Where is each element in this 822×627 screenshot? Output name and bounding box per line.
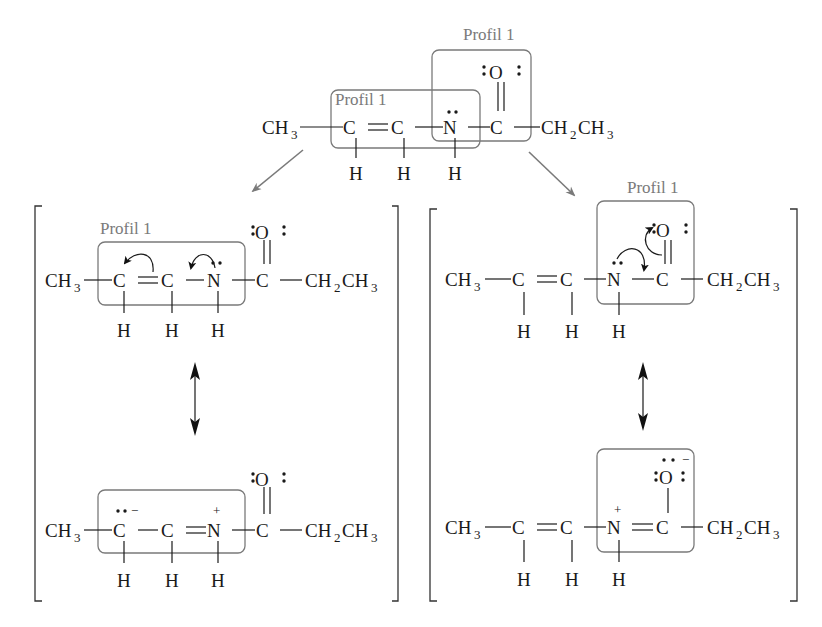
- atom-ch3: CH: [262, 117, 289, 138]
- atom-c1: C: [512, 269, 525, 290]
- atom-ch3: CH: [45, 270, 72, 291]
- atom-c1: C: [113, 270, 126, 291]
- atom-ch3-end: CH: [578, 117, 605, 138]
- profile-label-top-right: Profil 1: [463, 25, 514, 44]
- atom-ch3-end: CH: [342, 520, 369, 541]
- atom-o-anion: O: [659, 467, 673, 488]
- bracket-left: [35, 206, 42, 601]
- atom-c2: C: [560, 517, 573, 538]
- subscript: 3: [74, 530, 81, 545]
- subscript: 3: [474, 279, 481, 294]
- subscript: 3: [474, 527, 481, 542]
- atom-c2: C: [391, 117, 404, 138]
- atom-c1: C: [512, 517, 525, 538]
- profile-label-top-left: Profil 1: [335, 90, 386, 109]
- atom-c3: C: [256, 520, 269, 541]
- atom-h: H: [117, 570, 131, 591]
- atom-h: H: [612, 569, 626, 590]
- atom-o: O: [656, 220, 670, 241]
- atom-o: O: [489, 62, 503, 83]
- atom-h: H: [565, 321, 579, 342]
- atom-ch3-end: CH: [744, 517, 771, 538]
- profile-label-right: Profil 1: [627, 178, 678, 197]
- top-molecule: Profil 1 Profil 1 CH 3 C C N C O CH 2 CH…: [262, 25, 614, 184]
- atom-c2: C: [560, 269, 573, 290]
- atom-h: H: [117, 320, 131, 341]
- atom-h: H: [211, 570, 225, 591]
- charge-plus: +: [614, 502, 621, 517]
- right-panel: Profil 1 CH 3 C C N C O CH 2 CH 3 H H H: [430, 178, 797, 601]
- subscript: 3: [607, 127, 614, 142]
- subscript: 3: [371, 530, 378, 545]
- subscript: 3: [371, 280, 378, 295]
- charge-minus: −: [131, 503, 138, 518]
- subscript: 2: [334, 530, 341, 545]
- atom-h: H: [211, 320, 225, 341]
- atom-ch2: CH: [707, 269, 734, 290]
- atom-h: H: [165, 570, 179, 591]
- subscript: 2: [736, 279, 743, 294]
- charge-minus: −: [682, 452, 689, 467]
- atom-ch2: CH: [541, 117, 568, 138]
- subscript: 3: [74, 280, 81, 295]
- atom-h: H: [565, 569, 579, 590]
- atom-o: O: [255, 469, 269, 490]
- atom-ch3: CH: [445, 269, 472, 290]
- atom-h: H: [165, 320, 179, 341]
- atom-c3: C: [656, 269, 669, 290]
- atom-c3: C: [656, 517, 669, 538]
- subscript: 2: [736, 527, 743, 542]
- arrow-to-left-panel: [253, 150, 303, 191]
- atom-ch3: CH: [445, 517, 472, 538]
- subscript: 2: [334, 280, 341, 295]
- resonance-diagram: Profil 1 Profil 1 CH 3 C C N C O CH 2 CH…: [0, 0, 822, 627]
- atom-c1-anion: C: [113, 520, 126, 541]
- curved-arrow-lone-pair: [191, 255, 215, 269]
- arrow-to-right-panel: [529, 152, 574, 195]
- atom-n: N: [443, 117, 457, 138]
- subscript: 2: [570, 127, 577, 142]
- atom-h: H: [517, 321, 531, 342]
- profile-label-left: Profil 1: [100, 219, 151, 238]
- atom-n-cation: N: [207, 520, 221, 541]
- atom-ch2: CH: [305, 270, 332, 291]
- atom-ch3-end: CH: [342, 270, 369, 291]
- atom-c1: C: [343, 117, 356, 138]
- atom-h: H: [448, 163, 462, 184]
- charge-plus: +: [213, 503, 220, 518]
- atom-ch3: CH: [45, 520, 72, 541]
- left-panel: Profil 1 CH 3 C C N C O CH 2 CH 3 H H H: [35, 206, 398, 601]
- atom-o: O: [255, 222, 269, 243]
- atom-c2: C: [161, 270, 174, 291]
- atom-h: H: [517, 569, 531, 590]
- bracket-right: [790, 209, 797, 601]
- atom-h: H: [612, 321, 626, 342]
- atom-ch2: CH: [707, 517, 734, 538]
- atom-h: H: [349, 163, 363, 184]
- atom-n-cation: N: [607, 517, 621, 538]
- atom-ch2: CH: [305, 520, 332, 541]
- bracket-right: [392, 206, 398, 601]
- curved-arrow-pi-to-c: [125, 254, 153, 272]
- atom-n: N: [607, 269, 621, 290]
- atom-c3: C: [490, 117, 503, 138]
- atom-c2: C: [161, 520, 174, 541]
- atom-c3: C: [256, 270, 269, 291]
- subscript: 3: [773, 527, 780, 542]
- bracket-left: [430, 209, 437, 601]
- atom-n: N: [207, 270, 221, 291]
- curved-arrow-lone-pair: [617, 249, 644, 270]
- atom-ch3-end: CH: [744, 269, 771, 290]
- subscript: 3: [291, 127, 298, 142]
- atom-h: H: [397, 163, 411, 184]
- subscript: 3: [773, 279, 780, 294]
